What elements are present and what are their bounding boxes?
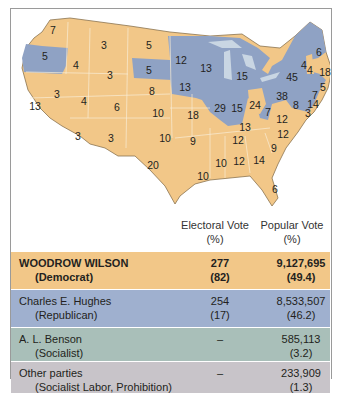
state-label-nh: 4 bbox=[307, 65, 313, 76]
candidate-party: (Socialist Labor, Prohibition) bbox=[35, 380, 172, 394]
state-label-nm: 3 bbox=[108, 133, 114, 144]
candidate-party: (Democrat) bbox=[35, 270, 93, 284]
state-label-sc: 9 bbox=[271, 143, 277, 154]
state-label-tx: 20 bbox=[147, 160, 159, 171]
state-label-ma: 18 bbox=[319, 67, 331, 78]
candidate-name: WOODROW WILSON bbox=[19, 256, 128, 270]
electoral-votes: – bbox=[195, 366, 245, 380]
popular-vote-header: Popular Vote (%) bbox=[250, 218, 334, 246]
state-label-ar: 9 bbox=[190, 136, 196, 147]
state-label-co: 6 bbox=[114, 102, 120, 113]
state-label-vt: 4 bbox=[301, 60, 307, 71]
candidate-name: A. L. Benson bbox=[19, 332, 82, 346]
state-label-ny: 45 bbox=[286, 72, 298, 83]
candidate-row-hughes: Charles E. Hughes (Republican) 254 (17) … bbox=[11, 289, 330, 327]
electoral-vote-percent: (17) bbox=[195, 308, 245, 322]
candidate-row-benson: A. L. Benson (Socialist) – 585,113 (3.2) bbox=[11, 327, 330, 362]
electoral-votes: – bbox=[195, 332, 245, 346]
popular-vote-label: Popular Vote bbox=[250, 218, 334, 232]
popular-vote-percent: (49.4) bbox=[266, 270, 336, 284]
candidate-row-wilson: WOODROW WILSON (Democrat) 277 (82) 9,127… bbox=[11, 251, 330, 289]
state-label-nv: 3 bbox=[54, 89, 60, 100]
state-label-id: 4 bbox=[73, 60, 79, 71]
state-label-ca: 13 bbox=[29, 101, 41, 112]
candidate-party: (Socialist) bbox=[35, 346, 83, 360]
state-label-nc: 12 bbox=[277, 129, 289, 140]
candidate-party: (Republican) bbox=[35, 308, 97, 322]
state-label-md: 8 bbox=[293, 100, 299, 111]
state-label-in: 15 bbox=[231, 103, 243, 114]
state-label-or: 5 bbox=[42, 51, 48, 62]
state-label-wa: 7 bbox=[50, 25, 56, 36]
state-label-ky: 13 bbox=[239, 122, 251, 133]
popular-votes: 233,909 bbox=[266, 366, 336, 380]
state-label-ri: 5 bbox=[320, 82, 326, 93]
candidate-row-other: Other parties (Socialist Labor, Prohibit… bbox=[11, 361, 330, 393]
state-label-wi: 13 bbox=[200, 63, 212, 74]
electoral-vote-percent-label: (%) bbox=[170, 232, 260, 246]
candidate-name: Charles E. Hughes bbox=[19, 294, 111, 308]
state-label-mi: 15 bbox=[236, 71, 248, 82]
state-label-wy: 3 bbox=[107, 70, 113, 81]
electoral-vote-percent: (82) bbox=[195, 270, 245, 284]
state-label-nd: 5 bbox=[146, 40, 152, 51]
state-label-ok: 10 bbox=[159, 133, 171, 144]
state-label-il: 29 bbox=[214, 103, 226, 114]
popular-vote-percent-label: (%) bbox=[250, 232, 334, 246]
state-label-mt: 3 bbox=[101, 40, 107, 51]
state-label-ks: 10 bbox=[152, 108, 164, 119]
map-shapes bbox=[10, 8, 330, 213]
state-label-mn: 12 bbox=[175, 55, 187, 66]
state-label-la: 10 bbox=[197, 171, 209, 182]
popular-votes: 9,127,695 bbox=[266, 256, 336, 270]
state-label-va: 12 bbox=[276, 114, 288, 125]
state-label-tn: 12 bbox=[232, 135, 244, 146]
candidate-name: Other parties bbox=[19, 366, 83, 380]
state-label-mo: 18 bbox=[187, 110, 199, 121]
state-label-ut: 4 bbox=[81, 96, 87, 107]
state-label-pa: 38 bbox=[276, 91, 288, 102]
popular-votes: 8,533,507 bbox=[266, 294, 336, 308]
state-label-al: 12 bbox=[233, 156, 245, 167]
electoral-vote-header: Electoral Vote (%) bbox=[170, 218, 260, 246]
electoral-votes: 254 bbox=[195, 294, 245, 308]
state-label-ms: 10 bbox=[215, 158, 227, 169]
popular-vote-percent: (3.2) bbox=[266, 346, 336, 360]
popular-vote-percent: (1.3) bbox=[266, 380, 336, 394]
state-label-ne: 8 bbox=[149, 86, 155, 97]
state-label-sd: 5 bbox=[146, 65, 152, 76]
electoral-vote-label: Electoral Vote bbox=[170, 218, 260, 232]
us-election-map: 7513433346335581010201213189101329151524… bbox=[10, 8, 330, 213]
state-label-ia: 13 bbox=[179, 82, 191, 93]
state-label-de: 3 bbox=[305, 108, 311, 119]
electoral-votes: 277 bbox=[195, 256, 245, 270]
state-label-wv: 7 bbox=[265, 107, 271, 118]
state-label-me: 6 bbox=[316, 47, 322, 58]
state-label-az: 3 bbox=[75, 131, 81, 142]
state-label-fl: 6 bbox=[272, 184, 278, 195]
state-label-ga: 14 bbox=[253, 155, 265, 166]
popular-votes: 585,113 bbox=[266, 332, 336, 346]
state-label-oh: 24 bbox=[249, 100, 261, 111]
popular-vote-percent: (46.2) bbox=[266, 308, 336, 322]
